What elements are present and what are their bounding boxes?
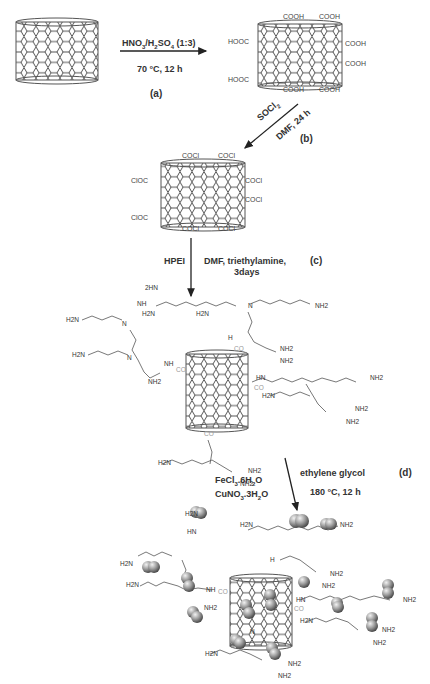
step-b-label: (b) xyxy=(300,133,313,144)
amine-label: NH2 xyxy=(355,405,368,412)
amine-label: H2N xyxy=(185,510,198,517)
amine-label: NH2 xyxy=(370,374,383,381)
cnt-pristine xyxy=(16,18,98,84)
amine-label: NH2 xyxy=(382,626,395,633)
group-hooc: HOOC xyxy=(228,76,249,83)
amine-label: NH2 xyxy=(315,302,328,309)
amine-label: NH xyxy=(137,300,146,307)
group-cloc: ClOC xyxy=(131,214,148,221)
step-c-conditions-2: 3days xyxy=(234,267,260,277)
carbonyl-label: CO xyxy=(234,345,244,352)
step-c-reagent: HPEI xyxy=(164,256,185,266)
amine-label: NH2 xyxy=(330,570,343,577)
group-cloc: ClOC xyxy=(131,177,148,184)
group-cooh: COOH xyxy=(283,13,304,20)
amine-label: N xyxy=(250,628,255,635)
group-cooh: COOH xyxy=(319,13,340,20)
group-cocl: COCl xyxy=(182,152,199,159)
group-cocl: COCl xyxy=(245,177,262,184)
amine-label: N xyxy=(127,354,132,361)
step-d-conditions-1: ethylene glycol xyxy=(300,468,365,478)
amine-label: H2N xyxy=(142,310,155,317)
amine-label: H2N xyxy=(196,310,209,317)
group-cooh: COOH xyxy=(283,86,304,93)
amine-label: N xyxy=(248,302,253,309)
amine-label: H2N xyxy=(240,521,253,528)
carbonyl-label: CO xyxy=(176,366,186,373)
amine-label: HN xyxy=(256,374,265,381)
step-c-conditions-1: DMF, triethylamine, xyxy=(204,256,286,266)
amine-label: 2HN xyxy=(145,284,158,291)
amine-label: NH2 xyxy=(322,582,335,589)
step-a-reagent: HNO3/H2SO4 (1:3) xyxy=(122,38,196,50)
cnt-cooh xyxy=(258,20,342,90)
cnt-hpei xyxy=(186,350,248,432)
amine-label: HN xyxy=(187,528,196,535)
step-d-label: (d) xyxy=(399,467,412,478)
scheme-drawing xyxy=(0,0,430,684)
group-cocl: COCl xyxy=(182,225,199,232)
amine-label: NH2 xyxy=(148,378,161,385)
amine-label: H2N xyxy=(205,650,218,657)
amine-label: H2N xyxy=(262,392,275,399)
group-cocl: COCl xyxy=(245,196,262,203)
amine-label: NH2 xyxy=(248,467,261,474)
carbonyl-label: CO xyxy=(204,430,214,437)
amine-label: H2N xyxy=(72,351,85,358)
amine-label: H2N xyxy=(158,459,171,466)
amine-label: NH2 xyxy=(280,345,293,352)
step-d-reagent-1: FeCl3.6H2O xyxy=(215,475,262,487)
amine-label: NH2 xyxy=(204,604,217,611)
amine-label: NH2 xyxy=(278,672,291,679)
amine-label: NH xyxy=(206,586,215,593)
group-cooh: COOH xyxy=(345,40,366,47)
amine-label: H2N xyxy=(300,617,313,624)
step-d-conditions-2: 180 °C, 12 h xyxy=(310,487,361,497)
amine-label: NH2 xyxy=(288,660,301,667)
amine-label: NH2 xyxy=(340,521,353,528)
step-a-label: (a) xyxy=(150,88,162,99)
step-c-label: (c) xyxy=(310,255,322,266)
cnt-cocl xyxy=(161,159,245,231)
amine-label: H xyxy=(270,556,275,563)
group-cooh: COOH xyxy=(345,60,366,67)
amine-label: H2N xyxy=(120,560,133,567)
amine-label: NH2 xyxy=(403,596,416,603)
amine-label: NH2 xyxy=(346,418,359,425)
amine-label: NH xyxy=(164,360,173,367)
amine-label: NH2 xyxy=(373,639,386,646)
group-cocl: COCl xyxy=(218,152,235,159)
amine-label: N xyxy=(122,320,127,327)
step-a-conditions: 70 °C, 12 h xyxy=(137,64,183,74)
amine-label: HN xyxy=(296,596,305,603)
amine-label: H2N xyxy=(66,316,79,323)
amine-label: NH2 xyxy=(280,357,293,364)
carbonyl-label: CO xyxy=(294,605,304,612)
group-cocl: COCl xyxy=(218,225,235,232)
amine-label: H xyxy=(228,334,233,341)
carbonyl-label: CO xyxy=(218,588,228,595)
group-cooh: COOH xyxy=(319,86,340,93)
carbonyl-label: CO xyxy=(254,384,264,391)
amine-label: H2N xyxy=(126,581,139,588)
group-hooc: HOOC xyxy=(228,38,249,45)
step-d-reagent-2: CuNO3.3H2O xyxy=(215,489,268,501)
